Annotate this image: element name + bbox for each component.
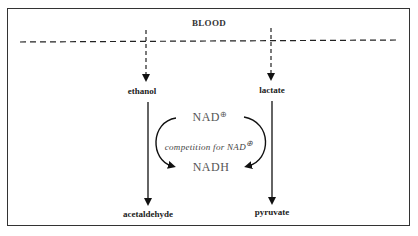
pyruvate-label: pyruvate xyxy=(255,207,290,217)
competition-text: competition for NAD xyxy=(165,142,246,152)
membrane-dashed-line xyxy=(20,40,398,42)
nadh-label: NADH xyxy=(193,160,230,175)
lactate-label: lactate xyxy=(259,85,284,95)
ethanol-label: ethanol xyxy=(128,86,157,96)
nad-text: NAD xyxy=(193,110,221,124)
nad-charge: ⊕ xyxy=(220,110,228,119)
competition-label: competition for NAD⊕ xyxy=(165,139,254,152)
blood-label: BLOOD xyxy=(192,18,226,28)
acetaldehyde-label: acetaldehyde xyxy=(123,209,173,219)
competition-charge: ⊕ xyxy=(246,139,253,148)
nad-label: NAD⊕ xyxy=(193,110,228,125)
